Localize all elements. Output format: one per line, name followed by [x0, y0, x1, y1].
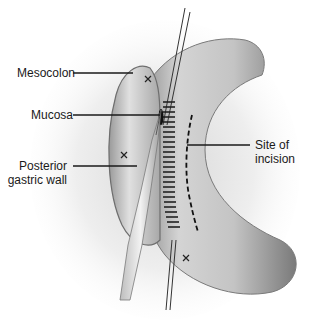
surgical-illustration: Mesocolon Mucosa Posterior gastric wall … — [0, 0, 315, 325]
label-site-line1: Site of — [255, 138, 289, 152]
label-posterior-line2: gastric wall — [0, 173, 67, 187]
label-posterior-line1: Posterior — [15, 159, 67, 173]
label-mucosa: Mucosa — [31, 108, 73, 122]
label-site-line2: incision — [255, 152, 295, 166]
label-mesocolon: Mesocolon — [17, 66, 75, 80]
